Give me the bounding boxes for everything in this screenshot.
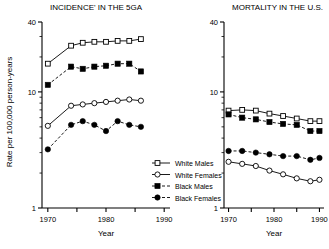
data-point-0-1-6 xyxy=(127,61,132,66)
data-point-0-1-7 xyxy=(138,69,143,74)
y-tick-label-0-1: 10 xyxy=(28,88,36,97)
legend-marker-0 xyxy=(155,161,160,166)
y-tick-label-0-2: 40 xyxy=(28,18,36,27)
chart-svg: INCIDENCE' IN THE 5GA11040197019801990Ye… xyxy=(0,0,329,249)
data-point-0-3-7 xyxy=(138,124,143,129)
data-point-0-0-7 xyxy=(139,37,144,42)
x-axis-title-1: Year xyxy=(266,229,283,238)
data-point-1-2-3 xyxy=(267,152,272,157)
data-point-0-2-3 xyxy=(92,101,97,106)
data-point-1-0-3 xyxy=(267,111,272,116)
x-tick-label-0-4: 1990 xyxy=(156,215,173,224)
data-point-1-3-4 xyxy=(280,172,285,177)
data-point-0-2-1 xyxy=(68,103,73,108)
data-point-0-1-5 xyxy=(115,61,120,66)
x-tick-label-0-2: 1980 xyxy=(98,215,115,224)
data-point-0-2-2 xyxy=(80,102,85,107)
data-point-0-3-5 xyxy=(115,118,120,123)
data-point-1-1-7 xyxy=(317,128,322,133)
legend-label-3: Black Females xyxy=(175,195,221,202)
data-point-1-0-4 xyxy=(281,114,286,119)
data-point-1-2-0 xyxy=(226,148,231,153)
data-point-0-3-2 xyxy=(80,118,85,123)
data-point-1-1-1 xyxy=(240,115,245,120)
data-point-0-0-2 xyxy=(80,40,85,45)
data-point-1-0-6 xyxy=(308,119,313,124)
data-point-0-1-4 xyxy=(103,63,108,68)
y-tick-label-1-2: 40 xyxy=(210,18,218,27)
chart-title-0: INCIDENCE' IN THE 5GA xyxy=(50,3,143,12)
data-point-1-3-7 xyxy=(317,177,322,182)
x-tick-label-1-2: 1980 xyxy=(266,215,283,224)
data-point-1-3-5 xyxy=(294,176,299,181)
data-point-1-3-2 xyxy=(253,163,258,168)
data-point-0-3-4 xyxy=(103,128,108,133)
data-point-0-2-0 xyxy=(45,123,50,128)
data-point-1-2-4 xyxy=(280,153,285,158)
data-point-1-3-0 xyxy=(226,159,231,164)
data-point-1-1-6 xyxy=(308,128,313,133)
data-point-1-2-1 xyxy=(239,148,244,153)
data-point-1-3-6 xyxy=(308,179,313,184)
data-point-0-3-6 xyxy=(127,122,132,127)
data-point-1-3-3 xyxy=(267,168,272,173)
data-point-1-1-2 xyxy=(253,117,258,122)
data-point-0-1-0 xyxy=(45,82,50,87)
data-point-0-1-2 xyxy=(80,66,85,71)
legend-label-2: Black Males xyxy=(175,183,213,190)
data-point-1-2-7 xyxy=(317,155,322,160)
x-axis-title-0: Year xyxy=(98,229,115,238)
data-point-1-0-2 xyxy=(253,108,258,113)
data-point-0-0-6 xyxy=(127,38,132,43)
data-point-0-1-1 xyxy=(68,64,73,69)
data-point-0-0-4 xyxy=(104,39,109,44)
data-point-0-2-4 xyxy=(103,99,108,104)
data-point-0-0-5 xyxy=(115,38,120,43)
data-point-1-0-1 xyxy=(240,107,245,112)
data-point-0-0-3 xyxy=(92,39,97,44)
data-point-0-0-0 xyxy=(45,61,50,66)
data-point-1-0-7 xyxy=(317,119,322,124)
y-tick-label-1-0: 1 xyxy=(214,204,218,213)
figure-panel: INCIDENCE' IN THE 5GA11040197019801990Ye… xyxy=(0,0,329,249)
y-tick-label-0-0: 1 xyxy=(32,204,36,213)
data-point-0-0-1 xyxy=(69,43,74,48)
data-point-0-2-7 xyxy=(138,98,143,103)
legend-marker-1 xyxy=(155,172,160,177)
legend-marker-3 xyxy=(155,195,160,200)
y-tick-label-1-1: 10 xyxy=(210,88,218,97)
data-point-0-3-0 xyxy=(45,147,50,152)
data-point-0-3-3 xyxy=(92,122,97,127)
y-axis-title: Rate per 100,000 person-years xyxy=(5,57,14,168)
data-point-0-1-3 xyxy=(92,64,97,69)
data-point-1-2-5 xyxy=(294,153,299,158)
legend-label-1: White Females xyxy=(175,172,222,179)
legend-marker-2 xyxy=(155,183,160,188)
data-point-1-2-6 xyxy=(308,157,313,162)
data-point-0-2-5 xyxy=(115,98,120,103)
data-point-1-2-2 xyxy=(253,150,258,155)
data-point-0-3-1 xyxy=(68,122,73,127)
x-tick-label-1-4: 1990 xyxy=(311,215,328,224)
data-point-1-1-0 xyxy=(226,112,231,117)
data-point-1-0-5 xyxy=(294,116,299,121)
data-point-1-1-4 xyxy=(280,121,285,126)
legend-label-0: White Males xyxy=(175,160,214,167)
data-point-1-1-3 xyxy=(267,119,272,124)
data-point-1-3-1 xyxy=(240,161,245,166)
x-tick-label-1-0: 1970 xyxy=(220,215,237,224)
data-point-1-1-5 xyxy=(294,122,299,127)
x-tick-label-0-0: 1970 xyxy=(39,215,56,224)
data-point-0-2-6 xyxy=(127,97,132,102)
chart-title-1: MORTALITY IN THE U.S. xyxy=(232,3,323,12)
